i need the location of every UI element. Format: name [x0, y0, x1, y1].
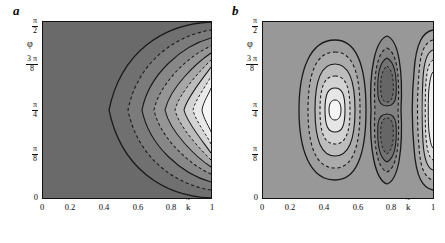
panel-b-ytick-pi-over-8: π 8: [238, 145, 258, 163]
panel-b-plot-area: [262, 21, 434, 199]
panel-a-ytick-pi-over-8: π 8: [18, 145, 38, 163]
panel-a-xtick-1: 1: [202, 203, 222, 212]
panel-a-ytick-pi-over-2: π 2: [18, 17, 38, 35]
panel-b-xtick-0: 0: [252, 203, 272, 212]
panel-a-contour-canvas: [43, 22, 211, 198]
panel-b-xtick-0_8: 0.8: [379, 203, 403, 212]
panel-a-xtick-0_4: 0.4: [92, 203, 116, 212]
panel-a: a π 2 φ 3 π 8 π 4 π 8: [0, 0, 223, 243]
panel-b-contour-svg: [263, 22, 433, 198]
panel-b-ytick-zero: 0: [238, 193, 258, 202]
panel-b-xaxis-name: ~k: [406, 202, 411, 212]
figure-two-panel-contour-plots: a π 2 φ 3 π 8 π 4 π 8: [0, 0, 445, 243]
panel-b-ytick-pi-over-4: π 4: [238, 101, 258, 119]
panel-b-yaxis-name: φ: [247, 38, 253, 49]
panel-b-label: b: [232, 4, 239, 17]
panel-a-xtick-0_8: 0.8: [159, 203, 183, 212]
panel-b-ytick-pi-over-2: π 2: [238, 17, 258, 35]
panel-a-contour-svg: [43, 22, 211, 198]
panel-b-xtick-1: 1: [423, 203, 443, 212]
panel-a-xaxis-name: ~k: [186, 202, 191, 212]
panel-b-xtick-0_2: 0.2: [278, 203, 302, 212]
panel-b-xtick-0_6: 0.6: [346, 203, 370, 212]
panel-a-ytick-pi-over-4: π 4: [18, 101, 38, 119]
panel-a-plot-area: [42, 21, 212, 199]
panel-a-ytick-zero: 0: [18, 193, 38, 202]
panel-b: b π 2 φ 3 π 8 π 4 π 8 0: [222, 0, 445, 243]
panel-b-contour-canvas: [263, 22, 433, 198]
panel-a-label: a: [13, 4, 20, 17]
panel-a-xtick-0_6: 0.6: [126, 203, 150, 212]
panel-b-ytick-3pi-over-8: 3 π 8: [232, 55, 258, 73]
panel-a-yaxis-name: φ: [27, 38, 33, 49]
panel-a-xtick-0_2: 0.2: [58, 203, 82, 212]
panel-b-xtick-0_4: 0.4: [312, 203, 336, 212]
panel-a-xtick-0: 0: [32, 203, 52, 212]
panel-a-ytick-3pi-over-8: 3 π 8: [12, 55, 38, 73]
